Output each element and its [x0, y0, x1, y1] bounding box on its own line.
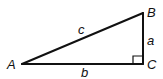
side-label-b: b [81, 65, 88, 79]
side-label-a: a [147, 33, 154, 48]
side-c-hypotenuse [22, 13, 143, 64]
right-triangle-diagram: A B C a b c [0, 0, 163, 79]
vertex-label-c: C [147, 57, 157, 72]
vertex-label-a: A [6, 57, 16, 72]
vertex-label-b: B [147, 5, 156, 20]
right-angle-marker-icon [133, 56, 143, 64]
triangle-edges [22, 13, 143, 64]
side-label-c: c [78, 22, 85, 37]
